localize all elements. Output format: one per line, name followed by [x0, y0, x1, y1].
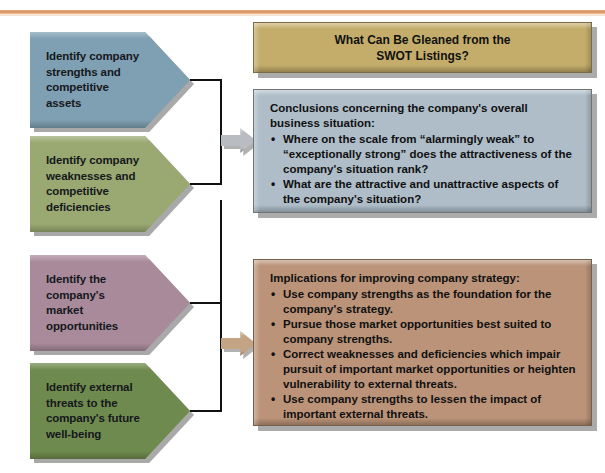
conclusions-box: Conclusions concerning the company's ove…	[253, 89, 592, 213]
connector-line-strengths	[190, 79, 222, 81]
connector-bracket-upper	[220, 79, 222, 185]
connector-bracket-lower	[220, 200, 222, 411]
implications-bullet-item: • Pursue those market opportunities best…	[270, 317, 577, 347]
conclusions-bullet-text: What are the attractive and unattractive…	[283, 178, 558, 205]
conclusions-bullet-text: Where on the scale from “alarmingly weak…	[283, 133, 572, 175]
implications-bullet-text: Use company strengths to lessen the impa…	[283, 393, 541, 420]
bullet-icon: •	[271, 132, 275, 147]
bullet-icon: •	[271, 177, 275, 192]
implications-bullet-item: • Use company strengths to lessen the im…	[270, 392, 577, 422]
conclusions-bullet-item: • Where on the scale from “alarmingly we…	[270, 132, 577, 177]
implications-bullet-text: Use company strengths as the foundation …	[283, 288, 551, 315]
bullet-icon: •	[271, 347, 275, 362]
title-line-2: SWOT Listings?	[254, 48, 591, 64]
implications-bullet-list: • Use company strengths as the foundatio…	[270, 287, 577, 422]
conclusions-bullet-list: • Where on the scale from “alarmingly we…	[270, 132, 577, 207]
top-rule-shadow	[0, 14, 605, 16]
step-label-threats: Identify external threats to the company…	[30, 380, 190, 442]
step-label-opportunities: Identify the company's market opportunit…	[30, 272, 190, 334]
swot-figure: Identify company strengths and competiti…	[0, 0, 605, 473]
connector-line-opportunities	[190, 302, 222, 304]
implications-bullet-item: • Correct weaknesses and deficiencies wh…	[270, 347, 577, 392]
title-line-1: What Can Be Gleaned from the	[254, 32, 591, 48]
implications-bullet-text: Correct weaknesses and deficiencies whic…	[283, 348, 576, 390]
title-box: What Can Be Gleaned from the SWOT Listin…	[253, 22, 592, 73]
implications-bullet-text: Pursue those market opportunities best s…	[283, 318, 551, 345]
connector-line-weaknesses	[190, 183, 222, 185]
conclusions-heading: Conclusions concerning the company's ove…	[270, 101, 577, 131]
bullet-icon: •	[271, 287, 275, 302]
step-label-weaknesses: Identify company weaknesses and competit…	[30, 153, 190, 215]
bullet-icon: •	[271, 317, 275, 332]
implications-bullet-item: • Use company strengths as the foundatio…	[270, 287, 577, 317]
implications-heading: Implications for improving company strat…	[270, 271, 577, 286]
step-label-strengths: Identify company strengths and competiti…	[30, 49, 190, 111]
implications-box: Implications for improving company strat…	[253, 259, 592, 426]
bullet-icon: •	[271, 392, 275, 407]
connector-line-threats	[190, 410, 222, 412]
conclusions-bullet-item: • What are the attractive and unattracti…	[270, 177, 577, 207]
